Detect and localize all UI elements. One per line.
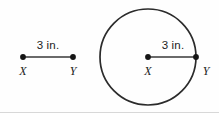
geometry-figure: 3 in. X Y 3 in. X Y xyxy=(0,0,219,113)
segment-point-x-dot xyxy=(20,54,26,60)
circle-group: 3 in. X Y xyxy=(100,9,211,105)
circle-center-label: X xyxy=(143,64,152,78)
segment-point-y-dot xyxy=(70,54,76,60)
circle-edge-point-label: Y xyxy=(203,64,211,78)
circle-center-dot xyxy=(145,54,151,60)
segment-length-label: 3 in. xyxy=(37,39,60,51)
circle-radius-label: 3 in. xyxy=(162,39,185,51)
segment-point-x-label: X xyxy=(18,64,27,78)
segment-group: 3 in. X Y xyxy=(18,39,77,78)
segment-point-y-label: Y xyxy=(70,64,78,78)
circle-edge-point-dot xyxy=(193,54,199,60)
figure-canvas: 3 in. X Y 3 in. X Y xyxy=(0,0,219,113)
